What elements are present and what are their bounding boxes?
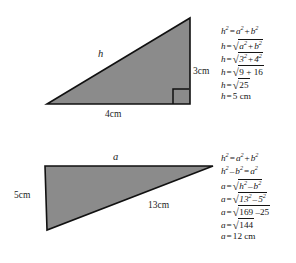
eq-term: a bbox=[221, 231, 226, 241]
equation-line: h=√a2+b2 bbox=[221, 38, 264, 51]
triangle-top-horizontal-leg-label: 4cm bbox=[105, 110, 121, 120]
eq-term: 13 bbox=[239, 194, 248, 204]
triangle-bottom-top-leg-label: a bbox=[113, 152, 118, 163]
eq-operator: = bbox=[226, 207, 233, 217]
eq-operator: = bbox=[226, 194, 233, 204]
eq-operator: = bbox=[226, 91, 233, 101]
equation-line: a=√144 bbox=[221, 217, 270, 230]
eq-operator: = bbox=[226, 231, 233, 241]
eq-operator: = bbox=[226, 181, 233, 191]
triangle-bottom-hypotenuse-label: 13cm bbox=[148, 201, 169, 211]
eq-operator: = bbox=[226, 220, 233, 230]
triangle-top-vertical-leg-label: 3cm bbox=[193, 67, 209, 77]
eq-exponent: 2 bbox=[255, 164, 258, 171]
eq-operator: + bbox=[244, 26, 251, 36]
eq-exponent: 2 bbox=[263, 192, 266, 199]
equation-line: h=√9 + 16 bbox=[221, 64, 264, 77]
eq-exponent: 2 bbox=[258, 179, 261, 186]
eq-operator: = bbox=[226, 67, 233, 77]
eq-term: h bbox=[221, 67, 226, 77]
eq-term: a bbox=[221, 220, 226, 230]
triangle-bottom-shape bbox=[45, 166, 213, 230]
eq-term: h bbox=[221, 91, 226, 101]
eq-exponent: 2 bbox=[259, 52, 262, 59]
equation-line: a=12 cm bbox=[221, 230, 270, 243]
eq-result-unit: cm bbox=[240, 91, 251, 101]
eq-operator: = bbox=[226, 54, 233, 64]
eq-operator: = bbox=[229, 153, 236, 163]
triangle-top-hypotenuse-label: h bbox=[98, 49, 103, 60]
eq-exponent: 2 bbox=[259, 39, 262, 46]
eq-operator: = bbox=[229, 26, 236, 36]
equation-line: h=√32+42 bbox=[221, 51, 264, 64]
eq-term: h bbox=[221, 54, 226, 64]
equation-block-hypotenuse: h2=a2+b2 h=√a2+b2 h=√32+42 h=√9 + 16 h=√… bbox=[221, 25, 264, 103]
eq-result-value: 12 bbox=[233, 231, 242, 241]
equation-line: a=√h2–b2 bbox=[221, 178, 270, 191]
eq-operator: + bbox=[244, 153, 251, 163]
eq-term: h bbox=[221, 41, 226, 51]
equation-line: h2–b2=a2 bbox=[221, 165, 270, 178]
eq-exponent: 2 bbox=[255, 24, 258, 31]
equation-block-leg: h2=a2+b2 h2–b2=a2 a=√h2–b2 a=√132–52 a=√… bbox=[221, 152, 270, 243]
eq-operator: – bbox=[247, 181, 254, 191]
triangle-top-shape bbox=[47, 18, 190, 104]
eq-result-unit: cm bbox=[244, 231, 255, 241]
equation-line: a=√132–52 bbox=[221, 191, 270, 204]
eq-operator: = bbox=[226, 41, 233, 51]
eq-operator: = bbox=[226, 80, 233, 90]
eq-term: a bbox=[221, 194, 226, 204]
eq-exponent: 2 bbox=[255, 151, 258, 158]
equation-line: h=√25 bbox=[221, 77, 264, 90]
right-angle-marker-icon bbox=[173, 89, 189, 104]
equation-line: h=5 cm bbox=[221, 90, 264, 103]
eq-term: a bbox=[221, 207, 226, 217]
equation-line: a=√169 –25 bbox=[221, 204, 270, 217]
eq-term: a bbox=[221, 181, 226, 191]
eq-result-value: 5 bbox=[233, 91, 238, 101]
equation-line: h2=a2+b2 bbox=[221, 25, 264, 38]
triangle-bottom-vertical-leg-label: 5cm bbox=[14, 191, 30, 201]
worksheet-page: h 3cm 4cm a 5cm 13cm h2=a2+b2 h=√a2+b2 h… bbox=[0, 0, 296, 263]
eq-term: h bbox=[221, 80, 226, 90]
